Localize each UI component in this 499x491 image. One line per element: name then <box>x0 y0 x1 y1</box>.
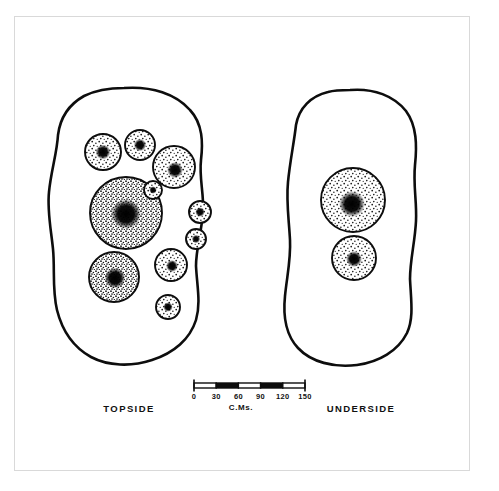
scale-segment-30-60 <box>216 383 238 388</box>
scale-tick-label-60: 60 <box>234 392 243 401</box>
caption-topside: TOPSIDE <box>103 403 154 414</box>
cupule-u2 <box>332 236 376 280</box>
cupule-u1 <box>321 168 385 232</box>
scale-tick-label-150: 150 <box>298 392 311 401</box>
panel-underside <box>284 90 416 366</box>
scale-tick-label-0: 0 <box>192 392 196 401</box>
cupule-t10 <box>144 181 162 199</box>
scale-tick-label-90: 90 <box>256 392 265 401</box>
cupule-t5 <box>189 201 211 223</box>
cupule-t6 <box>186 229 206 249</box>
line-drawing: 0 30 60 90 120 150 C.Ms. TOPSIDE UNDERSI… <box>0 0 499 491</box>
cupule-t2 <box>125 130 155 160</box>
panel-topside <box>48 88 211 365</box>
caption-underside: UNDERSIDE <box>327 403 396 414</box>
scale-unit-label: C.Ms. <box>229 403 253 412</box>
scale-segment-120-150 <box>283 383 305 388</box>
figure-root: 0 30 60 90 120 150 C.Ms. TOPSIDE UNDERSI… <box>0 0 499 491</box>
scale-segment-60-90 <box>238 383 260 388</box>
cupule-t9 <box>156 295 180 319</box>
scale-tick-label-120: 120 <box>276 392 289 401</box>
scale-tick-label-30: 30 <box>212 392 221 401</box>
cupule-t8 <box>155 249 187 281</box>
cupule-t3 <box>153 146 195 188</box>
scale-segment-90-120 <box>261 383 283 388</box>
cupule-t7 <box>89 252 139 302</box>
cupule-t1 <box>85 134 121 170</box>
scale-bar: 0 30 60 90 120 150 C.Ms. <box>192 380 312 413</box>
scale-segment-0-30 <box>194 383 216 388</box>
